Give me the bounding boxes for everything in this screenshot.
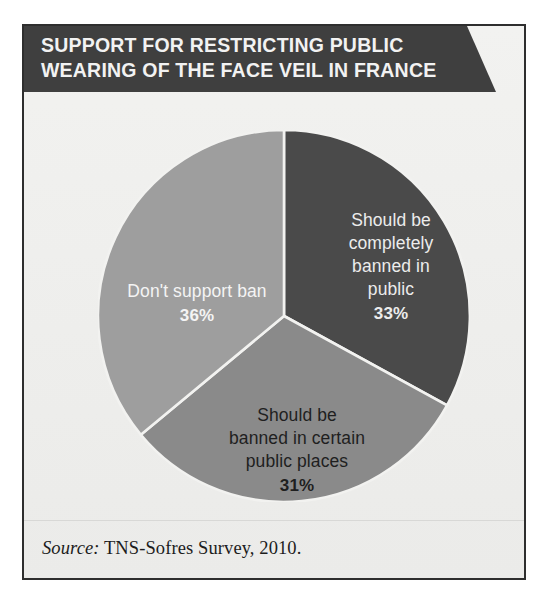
slice-label-text-certain-places: Should be (257, 405, 337, 425)
slice-label-text-completely-banned: Should be (351, 210, 431, 230)
slice-label-text-completely-banned-3: banned in (352, 256, 430, 276)
slice-value-dont-support: 36% (102, 304, 292, 327)
slice-label-text-certain-places-2: banned in certain (229, 428, 365, 448)
source-value: TNS-Sofres Survey, 2010. (100, 538, 302, 558)
chart-figure: SUPPORT FOR RESTRICTING PUBLIC WEARING O… (22, 24, 526, 580)
slice-label-text-completely-banned-2: completely (349, 233, 434, 253)
slice-label-text-completely-banned-4: public (368, 279, 414, 299)
page-title: SUPPORT FOR RESTRICTING PUBLIC WEARING O… (41, 33, 461, 83)
slice-label-dont-support: Don't support ban 36% (102, 280, 292, 327)
pie-chart: Should be completely banned in public 33… (24, 92, 524, 512)
slice-label-text-dont-support: Don't support ban (127, 281, 266, 301)
slice-value-completely-banned: 33% (316, 302, 466, 325)
footer-divider (24, 520, 524, 521)
slice-label-certain-places: Should be banned in certain public place… (164, 404, 430, 497)
source-label: Source: (42, 538, 100, 558)
slice-label-completely-banned: Should be completely banned in public 33… (316, 209, 466, 325)
slice-value-certain-places: 31% (164, 474, 430, 497)
source-note: Source: TNS-Sofres Survey, 2010. (42, 538, 301, 559)
slice-label-text-certain-places-3: public places (246, 451, 348, 471)
